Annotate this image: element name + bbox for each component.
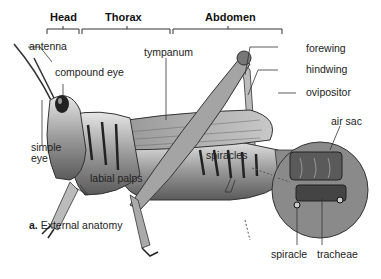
label-hindwing: hindwing: [306, 64, 347, 75]
label-simple-eye-line2: eye: [31, 153, 48, 164]
label-tympanum: tympanum: [144, 47, 193, 58]
label-air-sac: air sac: [331, 116, 362, 127]
compound-eye-shape: [55, 95, 69, 113]
label-labial-palps: labial palps: [90, 173, 143, 184]
region-abdomen-label: Abdomen: [205, 12, 256, 23]
region-brackets: [47, 26, 282, 34]
label-simple-eye-line1: simple: [31, 142, 61, 153]
antennae: [14, 44, 55, 102]
region-head-label: Head: [50, 12, 77, 23]
caption-letter: a.: [29, 219, 38, 231]
label-compound-eye: compound eye: [55, 67, 124, 78]
label-tracheae: tracheae: [317, 249, 358, 260]
label-spiracles: spiracles: [206, 150, 247, 161]
label-forewing: forewing: [306, 43, 346, 54]
figure-caption: a. External anatomy: [29, 219, 122, 231]
region-thorax-label: Thorax: [105, 12, 142, 23]
caption-text: External anatomy: [41, 219, 123, 231]
label-ovipositor: ovipositor: [306, 87, 351, 98]
label-spiracle: spiracle: [271, 249, 307, 260]
label-antenna: antenna: [29, 41, 67, 52]
